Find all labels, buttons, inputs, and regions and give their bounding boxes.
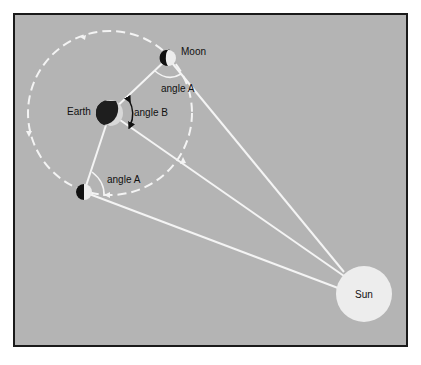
sun-label: Sun [355, 289, 373, 300]
angle-a-top-label: angle A [161, 83, 195, 94]
angle-a-bottom-label: angle A [107, 174, 141, 185]
earth-label: Earth [67, 106, 91, 117]
moon-bottom [76, 184, 92, 200]
earth [96, 100, 123, 126]
angle-b-label: angle B [134, 107, 168, 118]
moon-phase-diagram: Moon Earth Sun angle A angle A angle B [0, 0, 421, 365]
moon-label: Moon [181, 46, 206, 57]
